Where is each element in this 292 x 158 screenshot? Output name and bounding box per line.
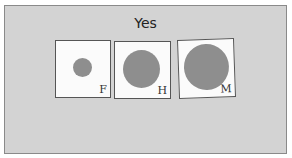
card-m: M [177,38,236,99]
card-h: H [114,41,171,99]
title: Yes [5,15,286,31]
panel: Yes F H M [4,5,287,154]
card-f: F [55,40,111,98]
circle-medium [123,50,160,88]
card-label: M [220,82,232,95]
card-label: H [157,84,167,97]
circle-small [73,58,92,77]
card-label: F [99,83,107,96]
